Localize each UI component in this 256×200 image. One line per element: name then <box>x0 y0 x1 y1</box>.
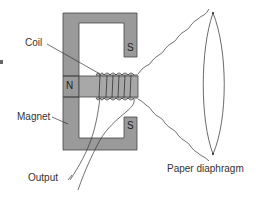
wire-to-diaphragm-top <box>138 9 209 74</box>
south-pole-bottom-label: S <box>127 121 134 131</box>
output-label: Output <box>28 173 58 183</box>
magnet-label: Magnet <box>17 112 50 122</box>
diaphragm-label: Paper diaphragm <box>167 164 244 174</box>
north-pole-label: N <box>66 81 73 91</box>
magnet-core <box>79 76 138 97</box>
paper-diaphragm <box>203 13 224 154</box>
south-pole-top-label: S <box>127 43 134 53</box>
edge-fragment-mark <box>0 60 3 64</box>
coil-label: Coil <box>25 38 42 48</box>
wire-to-diaphragm-bottom <box>138 99 209 161</box>
